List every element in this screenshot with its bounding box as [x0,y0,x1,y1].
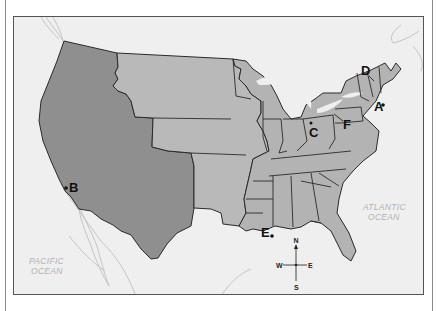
map-frame: A B C D E F PACIFIC OCEAN ATLANTIC [13,16,424,295]
point-e-marker [270,234,274,238]
point-label-a: A [374,99,385,114]
svg-text:PACIFIC: PACIFIC [29,256,65,266]
label-f: F [343,117,351,132]
ocean-label-atlantic: ATLANTIC OCEAN [362,202,406,222]
label-d: D [361,63,370,78]
us-map: A B C D E F PACIFIC OCEAN ATLANTIC [14,17,424,295]
svg-text:OCEAN: OCEAN [368,212,400,222]
page-edge-right [432,0,433,311]
svg-text:OCEAN: OCEAN [31,266,63,276]
page-edge-left [5,0,6,311]
point-b-marker [64,186,68,190]
point-label-c: C [309,122,319,141]
compass-s: S [294,284,299,291]
label-b: B [69,180,78,195]
svg-text:ATLANTIC: ATLANTIC [362,202,406,212]
compass-rose: N S E W [276,237,313,291]
label-c: C [309,125,319,140]
label-e: E [261,225,270,240]
compass-w: W [276,262,283,269]
north-arrow-icon [294,244,298,249]
compass-n: N [294,237,299,244]
compass-e: E [308,262,313,269]
ocean-label-pacific: PACIFIC OCEAN [29,256,65,276]
label-a: A [374,99,384,114]
region-east [233,59,401,261]
